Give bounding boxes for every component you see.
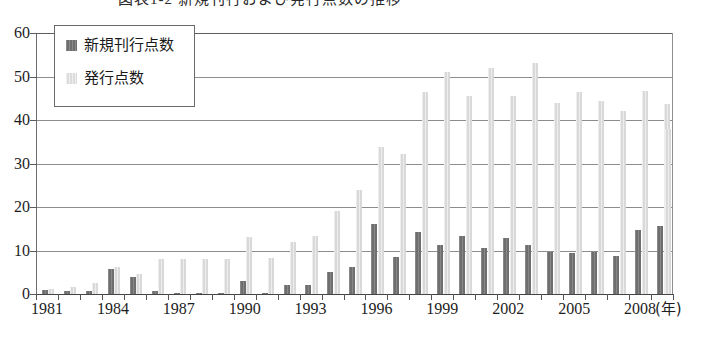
x-axis-tick-label-1996: 1996 — [352, 300, 400, 318]
bar-total-titles-1997 — [400, 154, 406, 294]
x-axis-tick-label-1993: 1993 — [287, 300, 335, 318]
x-axis-tick-26 — [607, 294, 608, 300]
bar-new-titles-1986 — [152, 291, 158, 294]
bar-new-titles-1992 — [284, 285, 290, 294]
x-axis-tick-label-1999: 1999 — [418, 300, 466, 318]
chart-page: 図表1-2 新規刊行および発行点数の推移 6050403020100 19811… — [0, 0, 709, 340]
bar-new-titles-1995 — [349, 267, 355, 294]
bar-new-titles-1989 — [218, 293, 224, 295]
y-axis-tick-label-60: 60 — [0, 25, 30, 41]
bar-new-titles-1997 — [393, 257, 399, 294]
y-axis-tick-60 — [30, 33, 37, 34]
legend-label-new-titles: 新規刊行点数 — [84, 38, 174, 53]
bar-new-titles-1985 — [130, 277, 136, 294]
bar-total-titles-1987 — [180, 259, 186, 294]
bar-new-titles-2007 — [613, 256, 619, 294]
bar-new-titles-1991 — [262, 293, 268, 295]
x-axis-tick-20 — [475, 294, 476, 300]
bar-total-titles-1991 — [268, 258, 274, 294]
bar-total-titles-1986 — [158, 259, 164, 294]
x-axis-line — [36, 294, 673, 295]
figure-caption-cropped: 図表1-2 新規刊行および発行点数の推移 — [0, 0, 709, 8]
legend-label-total-titles: 発行点数 — [84, 71, 144, 86]
x-axis-tick-label-1981: 1981 — [23, 300, 71, 318]
x-axis-unit-label: (年) — [655, 300, 682, 318]
y-axis-tick-50 — [30, 77, 37, 78]
x-axis-tick-label-2002: 2002 — [484, 300, 532, 318]
x-axis-tick-label-2005: 2005 — [550, 300, 598, 318]
y-axis-tick-40 — [30, 120, 37, 121]
figure-caption-text: 図表1-2 新規刊行および発行点数の推移 — [118, 0, 402, 8]
bar-new-titles-1983 — [86, 291, 92, 294]
legend-entry-total-titles: 発行点数 — [66, 71, 144, 86]
bar-total-titles-2005 — [576, 92, 582, 294]
legend-swatch-light-icon — [66, 73, 77, 84]
bar-total-titles-1992 — [290, 242, 296, 294]
y-axis-tick-label-40: 40 — [0, 112, 30, 128]
bar-total-titles-1995 — [356, 190, 362, 294]
y-axis-tick-20 — [30, 207, 37, 208]
bar-total-titles-1983 — [92, 283, 98, 294]
x-axis-tick-label-1984: 1984 — [89, 300, 137, 318]
bar-new-titles-1981 — [42, 290, 48, 294]
bar-total-titles-2003 — [532, 63, 538, 294]
bar-new-titles-2006 — [591, 252, 597, 294]
bar-new-titles-1987 — [174, 293, 180, 295]
legend-entry-new-titles: 新規刊行点数 — [66, 38, 174, 53]
bar-new-titles-1994 — [327, 272, 333, 294]
bar-total-titles-1982 — [70, 287, 76, 294]
bar-new-titles-1999 — [437, 245, 443, 294]
bar-new-titles-2004 — [547, 252, 553, 294]
x-axis-tick-14 — [344, 294, 345, 300]
y-axis-tick-label-50: 50 — [0, 69, 30, 85]
bar-total-titles-2000 — [466, 96, 472, 294]
bar-new-titles-1993 — [305, 285, 311, 294]
bar-new-titles-1982 — [64, 291, 70, 294]
bar-total-titles-1985 — [136, 274, 142, 294]
bar-new-titles-2001 — [481, 248, 487, 294]
y-axis-tick-10 — [30, 251, 37, 252]
bar-new-titles-2005 — [569, 253, 575, 294]
bar-total-titles-1994 — [334, 211, 340, 294]
bar-total-titles-2004 — [554, 103, 560, 294]
y-axis-tick-label-20: 20 — [0, 199, 30, 215]
legend-swatch-dark-icon — [66, 40, 77, 51]
x-axis-tick-2 — [80, 294, 81, 300]
y-axis-tick-label-30: 30 — [0, 156, 30, 172]
bar-new-titles-2003 — [525, 245, 531, 294]
bar-total-titles-1998 — [422, 92, 428, 294]
bar-total-titles-1993 — [312, 236, 318, 294]
bar-total-titles-1981 — [48, 289, 54, 294]
bar-new-titles-1996 — [371, 224, 377, 294]
bar-new-titles-2000 — [459, 236, 465, 294]
bar-total-titles-1989 — [224, 259, 230, 294]
bar-total-titles-2002 — [510, 96, 516, 294]
bar-total-titles-2006 — [598, 101, 604, 294]
x-axis-tick-label-1990: 1990 — [221, 300, 269, 318]
bar-total-titles-1990 — [246, 237, 252, 294]
bar-new-titles-2009 — [657, 226, 663, 294]
y-axis-tick-label-10: 10 — [0, 243, 30, 259]
x-axis-tick-label-1987: 1987 — [155, 300, 203, 318]
x-axis-tick-5 — [146, 294, 147, 300]
bar-total-titles-trailing — [665, 129, 671, 294]
bar-new-titles-2008 — [635, 230, 641, 294]
bar-total-titles-1999 — [444, 72, 450, 294]
bar-total-titles-2008 — [642, 91, 648, 294]
bar-total-titles-2001 — [488, 68, 494, 294]
x-axis-tick-8 — [212, 294, 213, 300]
bar-new-titles-1988 — [196, 293, 202, 295]
x-axis-tick-17 — [409, 294, 410, 300]
x-axis-tick-23 — [541, 294, 542, 300]
bar-total-titles-1988 — [202, 259, 208, 294]
bar-new-titles-1984 — [108, 269, 114, 294]
bar-total-titles-2007 — [620, 111, 626, 294]
bar-total-titles-1996 — [378, 147, 384, 294]
bar-new-titles-1998 — [415, 232, 421, 294]
x-axis-tick-11 — [278, 294, 279, 300]
chart-legend: 新規刊行点数 発行点数 — [54, 25, 195, 107]
bar-new-titles-2002 — [503, 238, 509, 294]
bar-new-titles-1990 — [240, 281, 246, 294]
y-axis-tick-30 — [30, 164, 37, 165]
bar-total-titles-1984 — [114, 267, 120, 294]
